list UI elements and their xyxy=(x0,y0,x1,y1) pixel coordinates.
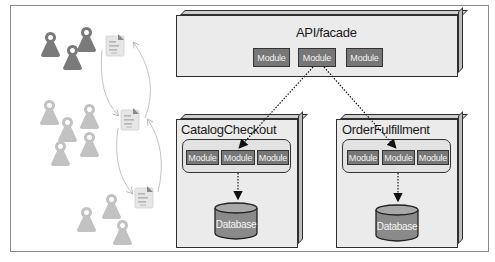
facade-to-order-arrow xyxy=(324,67,395,147)
facade-to-catalog-arrow xyxy=(240,67,313,147)
dependency-arrows xyxy=(0,0,495,262)
